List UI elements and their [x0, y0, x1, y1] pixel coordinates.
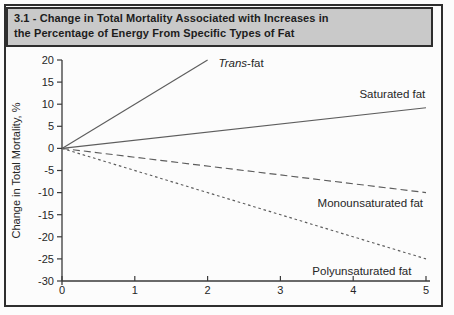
y-axis-title: Change in Total Mortality, %	[10, 102, 22, 238]
series-label-saturated-fat: Saturated fat	[359, 88, 426, 100]
y-tick-label: -30	[38, 275, 54, 287]
y-tick-label: -20	[38, 231, 54, 243]
mortality-fat-line-chart: 20151050-5-10-15-20-25-30012345Change in…	[0, 0, 454, 315]
x-tick-label: 4	[350, 284, 356, 296]
y-tick-label: -5	[44, 164, 54, 176]
y-tick-label: -15	[38, 209, 54, 221]
x-tick-label: 5	[423, 284, 429, 296]
series-label-trans-fat: Trans-fat	[219, 57, 265, 69]
y-tick-label: -10	[38, 186, 54, 198]
series-line-monounsaturated-fat	[62, 148, 426, 192]
series-label-polyunsaturated-fat: Polyunsaturated fat	[312, 265, 412, 277]
y-tick-label: 10	[42, 98, 54, 110]
y-tick-label: 0	[48, 142, 54, 154]
y-tick-label: 15	[42, 76, 54, 88]
x-tick-label: 0	[59, 284, 65, 296]
series-label-monounsaturated-fat: Monounsaturated fat	[318, 197, 424, 209]
figure-3-1: 3.1 - Change in Total Mortality Associat…	[0, 0, 454, 315]
y-tick-label: -25	[38, 253, 54, 265]
y-tick-label: 5	[48, 120, 54, 132]
y-tick-label: 20	[42, 54, 54, 66]
x-tick-label: 2	[205, 284, 211, 296]
x-tick-label: 3	[277, 284, 283, 296]
series-line-saturated-fat	[62, 108, 426, 149]
x-tick-label: 1	[132, 284, 138, 296]
